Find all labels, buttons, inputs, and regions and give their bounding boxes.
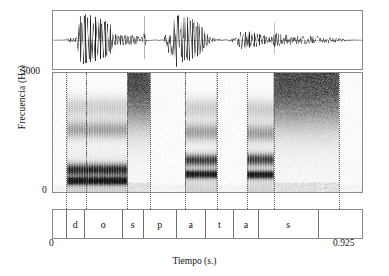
x-axis-label: Tiempo (s.) — [0, 256, 389, 266]
x-tick-max: 0.925 — [333, 238, 354, 248]
segment-cell: p — [144, 210, 177, 238]
waveform-panel — [52, 10, 363, 70]
segment-cell: d — [67, 210, 85, 238]
segment-boundary-line — [127, 72, 128, 209]
segment-label: a — [244, 219, 248, 230]
segment-boundary-line — [274, 72, 275, 209]
segmentation-panel: dospatas — [52, 209, 363, 239]
segment-boundary-line — [86, 72, 87, 209]
segment-boundary-line — [66, 72, 67, 209]
segment-boundary-line — [185, 72, 186, 209]
segment-boundary-line — [217, 72, 218, 209]
segment-boundary-line — [247, 72, 248, 209]
segment-cell: a — [234, 210, 259, 238]
segment-cell: s — [259, 210, 319, 238]
y-tick-max: 5000 — [21, 66, 40, 76]
segment-boundary-line — [150, 72, 151, 209]
segment-cell: t — [206, 210, 234, 238]
x-tick-min: 0 — [49, 238, 54, 248]
segment-label: s — [286, 219, 290, 230]
segment-label: p — [157, 219, 162, 230]
segment-label: s — [131, 219, 135, 230]
segment-cell — [319, 210, 340, 238]
waveform-plot — [53, 11, 362, 69]
segment-cell: a — [177, 210, 207, 238]
segment-cell: s — [123, 210, 144, 238]
spectrogram-plot — [53, 73, 362, 192]
segment-label: a — [189, 219, 193, 230]
segment-cell — [53, 210, 67, 238]
segment-cell: o — [85, 210, 123, 238]
segment-label: d — [73, 219, 78, 230]
segment-label: o — [101, 219, 106, 230]
spectrogram-figure: Frecuencia (Hz) 5000 0 0 0.925 Tiempo (s… — [0, 0, 389, 276]
y-axis-label: Frecuencia (Hz) — [17, 37, 27, 157]
y-tick-min: 0 — [42, 185, 47, 195]
spectrogram-panel — [52, 72, 363, 193]
segment-boundary-line — [339, 72, 340, 209]
segment-label: t — [218, 219, 221, 230]
